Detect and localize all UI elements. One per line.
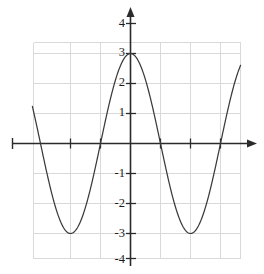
y-tick-label: -3 [115,226,125,240]
coordinate-plane-svg: 4 3 2 1 -1 -2 -3 -4 [0,0,264,274]
y-tick-label: -1 [115,166,125,180]
y-tick-label: 4 [119,16,126,30]
y-tick-label: 2 [119,75,125,89]
y-tick-label: -4 [115,252,126,266]
graph-figure: 4 3 2 1 -1 -2 -3 -4 [0,0,264,274]
y-tick-label: -2 [115,196,125,210]
y-tick-label: 1 [119,105,125,119]
y-tick-label: 3 [119,45,125,59]
